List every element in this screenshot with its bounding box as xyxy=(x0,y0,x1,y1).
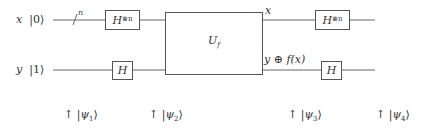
oracle-sub: f xyxy=(217,41,220,49)
state-psi-4: ↑ |ψ4⟩ xyxy=(376,109,410,123)
up-arrow-icon: ↑ xyxy=(288,108,297,121)
state-psi-1: ↑ |ψ1⟩ xyxy=(64,109,98,123)
oracle-gate: Uf xyxy=(165,12,263,75)
psi-symbol: ψ xyxy=(392,108,401,121)
state-psi-2: ↑ |ψ2⟩ xyxy=(149,109,183,123)
psi-index: 1 xyxy=(89,115,93,123)
up-arrow-icon: ↑ xyxy=(376,108,385,121)
gate-base: H xyxy=(113,14,123,27)
state-psi-3: ↑ |ψ3⟩ xyxy=(288,109,322,123)
output-y-label: y ⊕ f(x) xyxy=(264,54,305,65)
gate-base: H xyxy=(323,14,333,27)
psi-index: 2 xyxy=(174,115,178,123)
psi-symbol: ψ xyxy=(304,108,313,121)
register-y: y xyxy=(16,63,22,76)
gate-sup: ⊗n xyxy=(122,15,132,23)
hadamard-gate-right: H xyxy=(321,61,342,80)
psi-index: 4 xyxy=(401,115,405,123)
up-arrow-icon: ↑ xyxy=(149,108,158,121)
input-y-label: y |1⟩ xyxy=(16,64,44,75)
psi-index: 3 xyxy=(313,115,317,123)
ket-x-value: 0 xyxy=(33,13,40,26)
gate-base: H xyxy=(327,64,337,77)
gate-base: H xyxy=(118,64,128,77)
ket-y-value: 1 xyxy=(33,63,40,76)
hadamard-n-gate-left: H⊗n xyxy=(105,10,140,30)
psi-symbol: ψ xyxy=(80,108,89,121)
up-arrow-icon: ↑ xyxy=(64,108,73,121)
register-x: x xyxy=(16,13,22,26)
output-x-label: x xyxy=(265,5,271,16)
bus-width-label: n xyxy=(78,9,83,17)
input-x-label: x |0⟩ xyxy=(16,14,44,25)
gate-sup: ⊗n xyxy=(332,15,342,23)
hadamard-n-gate-right: H⊗n xyxy=(315,10,350,30)
hadamard-gate-left: H xyxy=(112,61,133,80)
psi-symbol: ψ xyxy=(165,108,174,121)
oracle-base: U xyxy=(208,34,217,47)
